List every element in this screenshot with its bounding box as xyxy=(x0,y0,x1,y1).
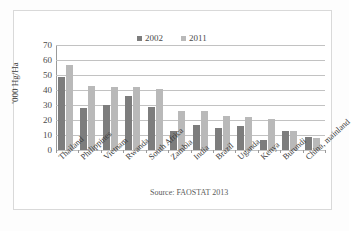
bar-2011 xyxy=(66,65,73,151)
y-axis-title: '000 Hg/Ha xyxy=(10,53,20,113)
bar-group xyxy=(303,45,325,150)
y-tick-label: 60 xyxy=(34,56,52,65)
bar-group xyxy=(146,45,168,150)
y-tick-label: 40 xyxy=(34,86,52,95)
y-tick-label: 70 xyxy=(34,41,52,50)
plot-area xyxy=(56,45,325,150)
y-tick-label: 10 xyxy=(34,131,52,140)
chart-legend: 2002 2011 xyxy=(137,33,207,43)
bar-group xyxy=(123,45,145,150)
bar-group xyxy=(191,45,213,150)
y-tick-label: 50 xyxy=(34,71,52,80)
y-tick-label: 20 xyxy=(34,116,52,125)
y-tick-label: 30 xyxy=(34,101,52,110)
legend-swatch-icon-2002 xyxy=(137,36,142,41)
bar-group xyxy=(56,45,78,150)
legend-item-2002: 2002 xyxy=(137,33,163,43)
y-tick-label: 0 xyxy=(34,146,52,155)
bar-group xyxy=(213,45,235,150)
legend-item-2011: 2011 xyxy=(181,33,207,43)
y-axis-ticks: 010203040506070 xyxy=(32,45,52,150)
bar-group xyxy=(280,45,302,150)
bar-group xyxy=(78,45,100,150)
legend-label-2011: 2011 xyxy=(189,33,207,43)
legend-label-2002: 2002 xyxy=(145,33,163,43)
x-tick-mark xyxy=(325,150,326,153)
bar-group xyxy=(258,45,280,150)
source-note: Source: FAOSTAT 2013 xyxy=(150,188,228,197)
bar-2002 xyxy=(58,77,65,151)
legend-swatch-icon-2011 xyxy=(181,36,186,41)
bar-group xyxy=(235,45,257,150)
